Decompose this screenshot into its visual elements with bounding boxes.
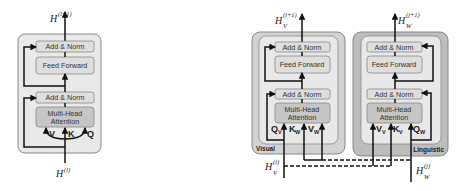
- q-label: Q: [87, 129, 94, 139]
- visual-add-norm-bottom-label: Add & Norm: [282, 90, 321, 99]
- visual-q-subscript: V: [278, 129, 282, 135]
- linguistic-input-superscript: (j): [424, 162, 430, 170]
- feed-forward-label: Feed Forward: [43, 61, 88, 70]
- visual-input-subscript: V: [273, 169, 278, 176]
- linguistic-tag: Linguistic: [413, 146, 444, 154]
- linguistic-v-subscript: V: [382, 129, 386, 135]
- v-label: V: [49, 129, 55, 139]
- visual-input-label: H: [264, 161, 273, 172]
- visual-output-superscript: (i+1): [283, 11, 297, 19]
- visual-v-subscript: W: [314, 129, 320, 135]
- visual-feed-forward-label: Feed Forward: [280, 60, 325, 69]
- linguistic-q-subscript: W: [420, 129, 426, 135]
- linguistic-add-norm-bottom-label: Add & Norm: [374, 90, 413, 99]
- mha-label-line2: Attention: [51, 117, 79, 126]
- linguistic-input-label: H: [415, 165, 424, 176]
- output-superscript: (l+1): [58, 10, 72, 18]
- linguistic-k-subscript: V: [399, 129, 403, 135]
- visual-k-subscript: W: [295, 129, 301, 135]
- linguistic-q-label: Q: [413, 124, 420, 134]
- add-norm-top-label: Add & Norm: [45, 42, 84, 51]
- linguistic-input-subscript: W: [424, 173, 430, 180]
- visual-coattention-block: Visual H V (i+1) Add & Norm Feed Forward…: [252, 11, 345, 178]
- diagram-canvas: H (l+1) Add & Norm Feed Forward Add & No…: [0, 0, 461, 191]
- linguistic-mha-label-line2: Attention: [380, 113, 408, 122]
- linguistic-output-superscript: (j+1): [406, 11, 420, 19]
- visual-mha-label-line2: Attention: [288, 113, 316, 122]
- linguistic-add-norm-top-label: Add & Norm: [374, 43, 413, 52]
- input-superscript: (l): [64, 166, 70, 174]
- standard-transformer-block: H (l+1) Add & Norm Feed Forward Add & No…: [18, 10, 101, 179]
- linguistic-coattention-block: Linguistic H W (j+1) Add & Norm Feed For…: [353, 11, 448, 182]
- visual-output-label: H: [274, 15, 283, 26]
- output-label: H: [49, 13, 58, 24]
- k-label: K: [68, 129, 75, 139]
- visual-tag: Visual: [256, 145, 275, 152]
- input-label: H: [55, 168, 64, 179]
- add-norm-bottom-label: Add & Norm: [45, 93, 84, 102]
- linguistic-feed-forward-label: Feed Forward: [372, 60, 417, 69]
- linguistic-output-subscript: W: [406, 22, 412, 29]
- visual-output-subscript: V: [283, 22, 288, 29]
- cross-modal-connections: [284, 160, 411, 166]
- visual-q-label: Q: [271, 124, 278, 134]
- visual-input-superscript: (i): [273, 158, 279, 166]
- visual-add-norm-top-label: Add & Norm: [282, 43, 321, 52]
- linguistic-output-label: H: [397, 15, 406, 26]
